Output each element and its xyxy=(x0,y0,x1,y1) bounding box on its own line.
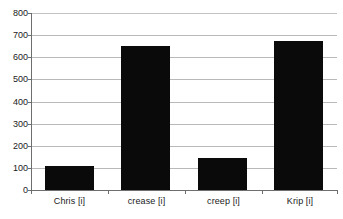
x-axis-label-chris: Chris [i] xyxy=(31,196,108,206)
bar-creep xyxy=(198,158,247,190)
x-tick-mark-2 xyxy=(185,190,186,194)
bar-chart: 800 700 600 500 400 300 200 100 0 Chris … xyxy=(0,0,343,219)
y-tick-label-600: 600 xyxy=(0,52,28,62)
y-tick-label-200: 200 xyxy=(0,141,28,151)
y-tick-mark-700 xyxy=(28,35,31,36)
y-tick-mark-500 xyxy=(28,79,31,80)
y-tick-label-500: 500 xyxy=(0,74,28,84)
y-tick-mark-300 xyxy=(28,124,31,125)
y-tick-label-300: 300 xyxy=(0,119,28,129)
x-axis-line xyxy=(31,190,337,191)
y-tick-mark-600 xyxy=(28,57,31,58)
y-tick-label-100: 100 xyxy=(0,163,28,173)
x-axis-label-krip: Krip [i] xyxy=(262,196,338,206)
x-tick-mark-1 xyxy=(108,190,109,194)
gridline-800 xyxy=(31,13,337,14)
y-tick-label-400: 400 xyxy=(0,97,28,107)
y-axis-line xyxy=(31,13,32,191)
y-tick-mark-200 xyxy=(28,146,31,147)
plot-area xyxy=(31,13,337,190)
x-tick-mark-0 xyxy=(31,190,32,194)
x-axis-label-creep: creep [i] xyxy=(185,196,262,206)
x-tick-mark-3 xyxy=(262,190,263,194)
y-tick-label-0: 0 xyxy=(0,185,28,195)
bar-crease xyxy=(121,46,170,190)
x-axis-label-crease: crease [i] xyxy=(108,196,185,206)
x-tick-mark-4 xyxy=(337,190,338,194)
bar-krip xyxy=(274,41,323,190)
y-tick-label-700: 700 xyxy=(0,30,28,40)
y-tick-mark-100 xyxy=(28,168,31,169)
y-tick-mark-800 xyxy=(28,13,31,14)
bar-chris xyxy=(45,166,94,190)
y-tick-mark-400 xyxy=(28,102,31,103)
gridline-700 xyxy=(31,35,337,36)
y-tick-label-800: 800 xyxy=(0,8,28,18)
